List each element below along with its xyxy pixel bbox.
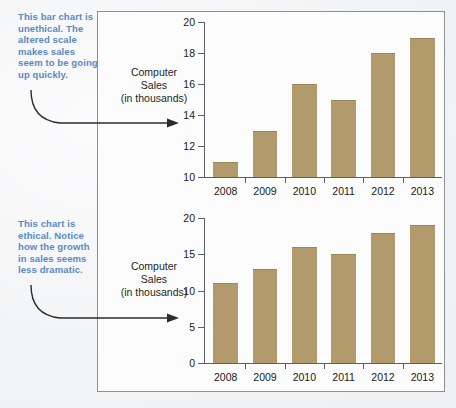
axis-title-line: Computer [102,66,206,79]
bar-2011-bottom [331,254,355,363]
y-tick-bottom [198,254,204,255]
y-tick-label-top: 16 [183,78,195,90]
y-tick-label-top: 18 [183,47,195,59]
plot-area-bottom: 05101520200820092010201120122013 [204,218,442,364]
y-tick-bottom [198,218,204,219]
y-tick-top [198,146,204,147]
bar-2011-top [331,100,355,178]
x-axis-line-bottom [204,363,442,364]
y-tick-label-top: 10 [183,171,195,183]
bar-2012-top [371,53,395,177]
chart-ethical: Computer Sales (in thousands) 0510152020… [100,210,444,392]
y-tick-label-bottom: 5 [189,321,195,333]
axis-title-line: Computer [102,260,206,273]
y-tick-label-top: 14 [183,109,195,121]
y-tick-top [198,115,204,116]
x-axis-line-top [204,177,442,178]
x-tick-bottom [403,364,404,369]
chart-unethical: Computer Sales (in thousands) 1012141618… [100,14,444,199]
x-tick-bottom [285,364,286,369]
bar-2008-bottom [213,283,237,363]
y-tick-top [198,84,204,85]
x-tick-label-2008-bottom: 2008 [214,371,237,383]
x-tick-label-2008-top: 2008 [214,185,237,197]
bar-2009-top [253,131,277,178]
x-tick-label-2012-top: 2012 [371,185,394,197]
x-tick-label-2013-top: 2013 [411,185,434,197]
y-tick-label-top: 12 [183,140,195,152]
annotation-ethical-chart: This chart is ethical. Notice how the gr… [18,218,100,276]
y-tick-label-bottom: 15 [183,248,195,260]
x-tick-bottom [363,364,364,369]
y-tick-label-bottom: 10 [183,285,195,297]
plot-area-top: 101214161820200820092010201120122013 [204,22,442,178]
x-tick-label-2009-bottom: 2009 [253,371,276,383]
x-tick-label-2009-top: 2009 [253,185,276,197]
x-tick-label-2010-top: 2010 [293,185,316,197]
bar-2012-bottom [371,233,395,364]
y-axis-line-bottom [204,218,205,364]
y-tick-top [198,22,204,23]
x-tick-top [403,178,404,183]
bar-2008-top [213,162,237,178]
y-tick-label-bottom: 20 [183,212,195,224]
x-tick-top [285,178,286,183]
x-tick-label-2010-bottom: 2010 [293,371,316,383]
bar-2009-bottom [253,269,277,363]
x-tick-top [324,178,325,183]
x-tick-bottom [324,364,325,369]
x-tick-bottom [245,364,246,369]
x-tick-label-2011-bottom: 2011 [332,371,355,383]
y-tick-bottom [198,327,204,328]
bar-2010-bottom [292,247,316,363]
bar-2013-top [410,38,434,178]
annotation-unethical-chart: This bar chart is unethical. The altered… [18,11,100,81]
y-tick-top [198,53,204,54]
x-tick-label-2013-bottom: 2013 [411,371,434,383]
y-tick-bottom [198,291,204,292]
y-tick-label-top: 20 [183,16,195,28]
x-tick-label-2012-bottom: 2012 [371,371,394,383]
y-tick-label-bottom: 0 [189,357,195,369]
x-tick-top [363,178,364,183]
bar-2010-top [292,84,316,177]
y-tick-bottom [198,363,204,364]
bar-2013-bottom [410,225,434,363]
figure-page: This bar chart is unethical. The altered… [0,0,456,408]
y-tick-top [198,177,204,178]
axis-title-line: (in thousands) [102,92,206,105]
y-axis-line-top [204,22,205,178]
x-tick-label-2011-top: 2011 [332,185,355,197]
x-tick-top [245,178,246,183]
